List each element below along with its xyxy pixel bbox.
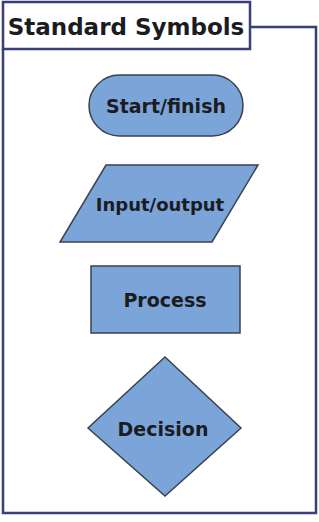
decision-label: Decision xyxy=(118,418,209,440)
diagram-title: Standard Symbols xyxy=(8,14,245,40)
symbol-input-output: Input/output xyxy=(60,165,258,242)
input-output-label: Input/output xyxy=(96,194,225,215)
symbol-start-finish: Start/finish xyxy=(89,75,243,136)
process-label: Process xyxy=(123,289,206,311)
start-finish-label: Start/finish xyxy=(106,95,226,117)
symbol-decision: Decision xyxy=(88,357,241,496)
symbol-process: Process xyxy=(91,266,240,333)
standard-symbols-diagram: Standard Symbols Start/finish Input/outp… xyxy=(0,0,319,522)
